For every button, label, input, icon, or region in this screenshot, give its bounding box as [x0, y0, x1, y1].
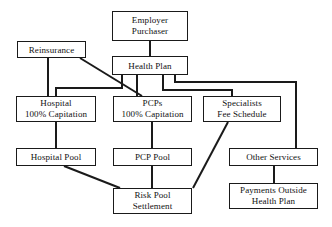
node-reinsurance[interactable]: Reinsurance: [17, 41, 86, 58]
node-label-secondary: 100% Capitation: [25, 109, 87, 120]
node-risk-pool-settlement[interactable]: Risk PoolSettlement: [113, 188, 192, 214]
node-label-primary: Specialists: [222, 98, 262, 109]
node-hospital-pool[interactable]: Hospital Pool: [16, 148, 96, 166]
node-label-primary: PCPs: [143, 98, 163, 109]
node-label-primary: Risk Pool: [134, 190, 170, 201]
node-label-primary: Other Services: [246, 151, 301, 163]
node-label-secondary: Health Plan: [252, 196, 295, 207]
node-hospital-capitation[interactable]: Hospital100% Capitation: [16, 96, 96, 122]
node-employer-purchaser[interactable]: EmployerPurchaser: [112, 11, 188, 41]
node-pcps-capitation[interactable]: PCPs100% Capitation: [113, 96, 192, 122]
node-label-primary: Hospital: [40, 98, 71, 109]
node-label-secondary: Fee Schedule: [217, 109, 266, 120]
node-label-primary: Reinsurance: [29, 44, 75, 56]
node-label-secondary: 100% Capitation: [121, 109, 183, 120]
node-pcp-pool[interactable]: PCP Pool: [113, 148, 192, 166]
node-label-primary: Employer: [132, 15, 168, 26]
connector-specialists-to-risk-pool: [193, 122, 228, 188]
node-specialists-fee-schedule[interactable]: SpecialistsFee Schedule: [203, 96, 281, 122]
node-payments-outside-health-plan[interactable]: Payments OutsideHealth Plan: [229, 183, 318, 209]
node-label-primary: Payments Outside: [240, 185, 307, 196]
connector-health-plan-to-specialists: [163, 75, 232, 96]
node-other-services[interactable]: Other Services: [229, 148, 318, 166]
node-label-primary: Hospital Pool: [31, 151, 82, 163]
node-label-primary: Health Plan: [128, 60, 171, 72]
connector-health-plan-to-hospital: [56, 75, 122, 96]
connector-hospital-pool-to-risk-pool: [64, 166, 120, 188]
flow-diagram: EmployerPurchaserHealth PlanReinsuranceH…: [0, 0, 332, 227]
node-health-plan[interactable]: Health Plan: [112, 56, 188, 75]
node-label-secondary: Settlement: [133, 201, 173, 212]
node-label-primary: PCP Pool: [135, 151, 170, 163]
node-label-secondary: Purchaser: [132, 26, 168, 37]
